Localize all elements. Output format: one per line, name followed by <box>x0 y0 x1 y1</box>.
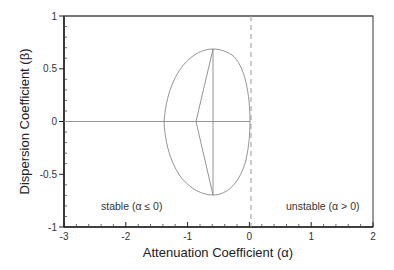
x-axis-title: Attenuation Coefficient (α) <box>143 245 293 260</box>
x-tick-label: -2 <box>121 231 130 242</box>
x-tick-label: 2 <box>370 231 376 242</box>
y-tick-label: -1 <box>48 222 57 233</box>
x-tick-label: 1 <box>308 231 314 242</box>
x-tick-label: -1 <box>183 231 192 242</box>
y-tick-label: 0.5 <box>43 63 57 74</box>
x-tick-label: -3 <box>60 231 69 242</box>
chart: -3 -2 -1 0 1 2 1 0.5 0 -0.5 -1 Attenuati… <box>0 0 394 270</box>
unstable-region-label: unstable (α > 0) <box>286 200 360 212</box>
y-axis-title: Dispersion Coefficient (β) <box>17 49 32 195</box>
y-tick-label: 0 <box>51 116 57 127</box>
stable-region-label: stable (α ≤ 0) <box>101 200 162 212</box>
y-tick-label: 1 <box>51 11 57 22</box>
x-tick-label: 0 <box>247 231 253 242</box>
y-tick-label: -0.5 <box>40 169 58 180</box>
